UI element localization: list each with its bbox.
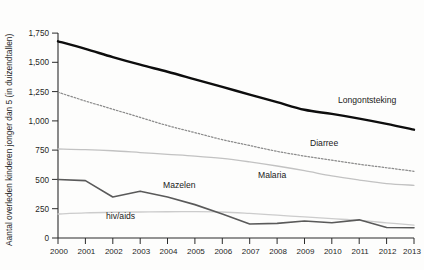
axes bbox=[58, 33, 414, 238]
series-labels: Longontsteking Diarree Malaria Mazelen h… bbox=[106, 95, 397, 221]
x-tick-label-2008: 2008 bbox=[269, 247, 287, 256]
x-tick-label-2006: 2006 bbox=[214, 247, 232, 256]
x-tick-label-2011: 2011 bbox=[352, 247, 370, 256]
y-tick-label-1000: 1,000 bbox=[29, 117, 50, 126]
series-label-diarree: Diarree bbox=[310, 138, 338, 148]
y-tick-label-250: 250 bbox=[35, 205, 49, 214]
x-tick-label-2005: 2005 bbox=[187, 247, 205, 256]
x-tick-label-2013: 2013 bbox=[403, 247, 421, 256]
x-axis-ticks: 2000 2001 2002 2003 2004 2005 2006 2007 … bbox=[50, 238, 421, 256]
y-tick-label-750: 750 bbox=[35, 146, 49, 155]
y-tick-label-500: 500 bbox=[35, 176, 49, 185]
series-label-hivaids: hiv/aids bbox=[106, 211, 135, 221]
y-tick-label-1250: 1,250 bbox=[29, 88, 50, 97]
x-tick-label-2003: 2003 bbox=[132, 247, 150, 256]
chart-container: Aantal overleden kinderen jonger dan 5 (… bbox=[0, 0, 424, 270]
x-tick-label-2009: 2009 bbox=[297, 247, 315, 256]
y-axis-title: Aantal overleden kinderen jonger dan 5 (… bbox=[4, 33, 14, 246]
y-axis-ticks: 1,750 1,500 1,250 1,000 750 500 250 0 bbox=[29, 29, 59, 243]
series-line-longontsteking bbox=[58, 41, 414, 129]
x-tick-label-2010: 2010 bbox=[324, 247, 342, 256]
data-series-group bbox=[58, 41, 414, 227]
x-tick-label-2012: 2012 bbox=[379, 247, 397, 256]
x-tick-label-2000: 2000 bbox=[50, 247, 68, 256]
y-tick-label-1500: 1,500 bbox=[29, 58, 50, 67]
series-label-mazelen: Mazelen bbox=[163, 180, 196, 190]
x-tick-label-2001: 2001 bbox=[78, 247, 96, 256]
series-label-malaria: Malaria bbox=[258, 170, 286, 180]
x-tick-label-2007: 2007 bbox=[242, 247, 260, 256]
series-label-longontsteking: Longontsteking bbox=[338, 95, 397, 105]
series-line-malaria bbox=[58, 149, 414, 185]
y-tick-label-1750: 1,750 bbox=[29, 29, 50, 38]
svg-text:Aantal overleden kinderen jong: Aantal overleden kinderen jonger dan 5 (… bbox=[4, 33, 14, 246]
x-tick-label-2002: 2002 bbox=[105, 247, 123, 256]
y-tick-label-0: 0 bbox=[44, 234, 49, 243]
x-tick-label-2004: 2004 bbox=[160, 247, 178, 256]
line-chart-svg: Aantal overleden kinderen jonger dan 5 (… bbox=[0, 0, 424, 270]
